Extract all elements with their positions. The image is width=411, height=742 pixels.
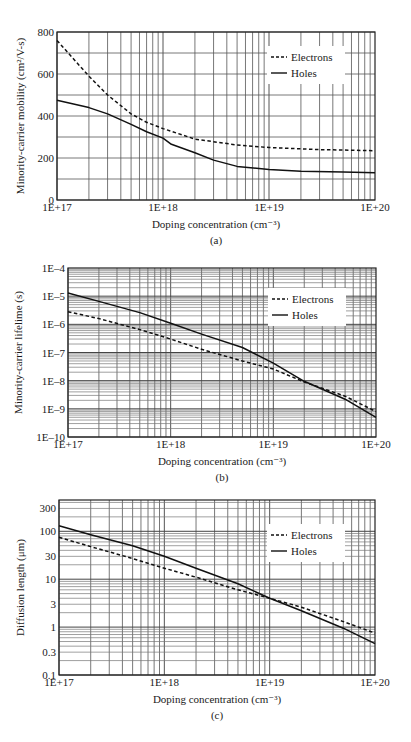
x-tick-label: 1E+18 xyxy=(150,676,180,688)
y-tick-label: 300 xyxy=(40,502,57,514)
chart-panel-lifetime: ElectronsHoles1E–101E–91E–81E–71E–61E–51… xyxy=(0,248,411,490)
y-tick-label: 1E–8 xyxy=(42,375,66,387)
chart-panel-mobility: ElectronsHoles02004006008001E+171E+181E+… xyxy=(0,0,411,248)
chart-panel-diffusion-length: ElectronsHoles0.10.31310301003001E+171E+… xyxy=(0,490,411,742)
y-axis-label: Minority-carrier mobility (cm²/V-s) xyxy=(14,38,27,195)
y-tick-label: 400 xyxy=(38,110,55,122)
x-tick-label: 1E+20 xyxy=(361,438,391,450)
x-tick-label: 1E+19 xyxy=(255,676,285,688)
y-axis-label: Minority-carrier lifelime (s) xyxy=(12,291,25,414)
legend: ElectronsHoles xyxy=(268,288,346,326)
x-tick-label: 1E+18 xyxy=(148,201,178,213)
legend: ElectronsHoles xyxy=(267,524,345,562)
y-tick-label: 800 xyxy=(38,26,55,38)
x-tick-label: 1E+18 xyxy=(156,438,186,450)
x-tick-label: 1E+17 xyxy=(42,201,72,213)
legend-label-holes: Holes xyxy=(291,67,317,79)
series-electrons xyxy=(68,312,376,412)
legend: ElectronsHoles xyxy=(267,46,345,84)
y-tick-label: 1E–4 xyxy=(42,262,66,274)
x-tick-label: 1E+19 xyxy=(259,438,289,450)
y-tick-label: 10 xyxy=(45,573,57,585)
legend-label-electrons: Electrons xyxy=(291,51,333,63)
legend-label-holes: Holes xyxy=(291,545,317,557)
y-tick-label: 1E–5 xyxy=(42,290,66,302)
y-axis-label: Diffusion length (μm) xyxy=(14,539,27,636)
x-tick-label: 1E+17 xyxy=(53,438,83,450)
series-holes xyxy=(57,100,375,172)
y-tick-label: 1E–6 xyxy=(42,318,66,330)
y-tick-label: 1E–9 xyxy=(42,403,66,415)
legend-label-electrons: Electrons xyxy=(292,293,334,305)
figure-caption: (a) xyxy=(210,234,223,247)
figure-caption: (b) xyxy=(216,471,229,484)
y-tick-label: 30 xyxy=(45,550,57,562)
y-tick-label: 200 xyxy=(38,152,55,164)
x-tick-label: 1E+19 xyxy=(254,201,284,213)
y-tick-label: 100 xyxy=(40,525,57,537)
diffusion-length-chart: ElectronsHoles0.10.31310301003001E+171E+… xyxy=(0,490,411,742)
figure-caption: (c) xyxy=(211,709,224,722)
y-tick-label: 3 xyxy=(51,598,57,610)
x-axis-label: Doping concentration (cm⁻³) xyxy=(158,455,287,468)
x-axis-label: Doping concentration (cm⁻³) xyxy=(152,218,281,231)
x-tick-label: 1E+17 xyxy=(44,676,74,688)
x-tick-label: 1E+20 xyxy=(360,201,390,213)
y-tick-label: 600 xyxy=(38,68,55,80)
legend-label-electrons: Electrons xyxy=(291,529,333,541)
y-tick-label: 0.3 xyxy=(42,646,56,658)
mobility-chart: ElectronsHoles02004006008001E+171E+181E+… xyxy=(0,0,411,248)
x-axis-label: Doping concentration (cm⁻³) xyxy=(153,693,282,706)
y-tick-label: 1 xyxy=(51,621,57,633)
y-tick-label: 1E–7 xyxy=(42,347,66,359)
lifetime-chart: ElectronsHoles1E–101E–91E–81E–71E–61E–51… xyxy=(0,248,411,490)
legend-label-holes: Holes xyxy=(292,309,318,321)
x-tick-label: 1E+20 xyxy=(360,676,390,688)
